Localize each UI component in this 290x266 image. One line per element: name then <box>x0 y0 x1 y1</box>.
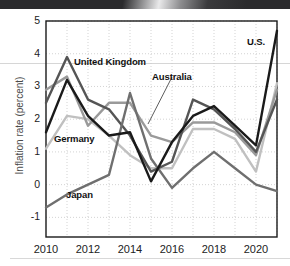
x-tick-label: 2010 <box>26 243 66 255</box>
inflation-rate-chart-figure: Inflation rate (percent) 543210-1 201020… <box>0 0 290 266</box>
plot-frame <box>46 21 277 237</box>
gridlines-group <box>46 21 277 237</box>
x-tick-label: 2018 <box>194 243 234 255</box>
x-tick-label: 2016 <box>152 243 192 255</box>
annotation-leader-lines <box>148 77 172 124</box>
x-tick-label: 2014 <box>110 243 150 255</box>
series-label-united-states: U.S. <box>247 36 265 47</box>
y-tick-label: -1 <box>26 210 40 222</box>
australia-leader-line <box>148 77 172 124</box>
y-tick-label: 3 <box>26 79 40 91</box>
y-tick-label: 5 <box>26 14 40 26</box>
y-tick-label: 0 <box>26 178 40 190</box>
series-label-germany: Germany <box>54 133 95 144</box>
y-tick-label: 2 <box>26 112 40 124</box>
series-line-germany <box>46 83 277 171</box>
series-label-united-kingdom: United Kingdom <box>74 56 146 67</box>
plot-border <box>46 21 277 237</box>
series-label-australia: Australia <box>152 71 192 82</box>
x-tick-label: 2012 <box>68 243 108 255</box>
y-tick-label: 4 <box>26 47 40 59</box>
x-tick-label: 2020 <box>236 243 276 255</box>
series-label-japan: Japan <box>66 189 93 200</box>
y-tick-label: 1 <box>26 145 40 157</box>
